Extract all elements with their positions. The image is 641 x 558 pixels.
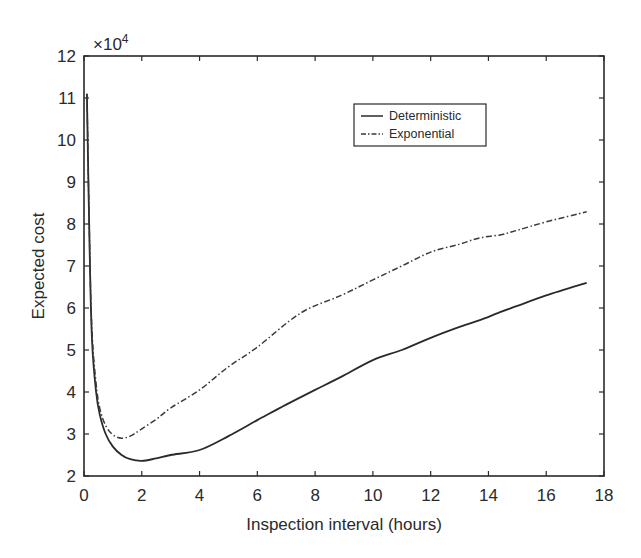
x-tick-label: 12 <box>421 486 440 505</box>
x-tick-label: 6 <box>253 486 262 505</box>
y-tick-label: 2 <box>67 467 76 486</box>
x-tick-label: 18 <box>595 486 614 505</box>
series-line-exponential <box>87 94 587 438</box>
x-tick-label: 16 <box>537 486 556 505</box>
x-tick-label: 14 <box>479 486 498 505</box>
y-tick-label: 10 <box>57 131 76 150</box>
series-line-deterministic <box>87 94 587 461</box>
y-tick-label: 11 <box>58 89 76 108</box>
y-tick-label: 5 <box>67 341 76 360</box>
x-tick-label: 0 <box>79 486 88 505</box>
axis-ticks: 02468101214161823456789101112 <box>57 47 613 505</box>
y-tick-label: 12 <box>57 47 76 66</box>
x-axis-label: Inspection interval (hours) <box>246 515 442 534</box>
legend-label-deterministic: Deterministic <box>389 109 461 123</box>
x-tick-label: 4 <box>195 486 204 505</box>
y-tick-label: 8 <box>67 215 76 234</box>
plot-area-frame <box>84 56 604 476</box>
x-tick-label: 8 <box>310 486 319 505</box>
y-tick-label: 7 <box>67 257 76 276</box>
y-tick-label: 3 <box>67 425 76 444</box>
y-axis-label: Expected cost <box>29 212 48 319</box>
x-tick-label: 10 <box>363 486 382 505</box>
y-tick-label: 9 <box>67 173 76 192</box>
legend-label-exponential: Exponential <box>389 127 454 141</box>
legend: Deterministic Exponential <box>354 104 486 146</box>
line-chart: 02468101214161823456789101112 ×104 Inspe… <box>0 0 641 558</box>
plot-series <box>87 94 587 461</box>
y-multiplier: ×104 <box>93 32 129 54</box>
y-tick-label: 6 <box>67 299 76 318</box>
y-tick-label: 4 <box>67 383 76 402</box>
x-tick-label: 2 <box>137 486 146 505</box>
